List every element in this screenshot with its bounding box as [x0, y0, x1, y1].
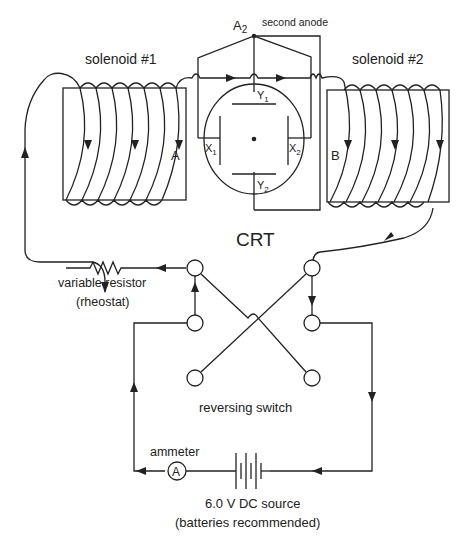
switch-terminal-top-left	[187, 260, 203, 276]
crt: Y1 Y2 X1 X2 A2 second anode	[198, 16, 328, 210]
point-b-label: B	[331, 148, 340, 163]
beam-spot	[252, 137, 257, 142]
switch-terminal-bottom-right	[304, 370, 320, 386]
current-arrow-icon	[226, 74, 236, 82]
source-label-line2: (batteries recommended)	[175, 515, 320, 530]
wire-solenoid1-to-rheostat	[25, 73, 105, 292]
current-arrow-icon	[308, 296, 316, 306]
crt-solenoid-circuit-diagram: A solenoid #1 Y1 Y2 X1 X2 A2 second anod…	[0, 0, 472, 552]
current-arrow-icon	[130, 382, 138, 392]
second-anode-label: second anode	[262, 16, 328, 28]
rheostat-label-line1: variable resistor	[58, 276, 146, 290]
ammeter-symbol-label: A	[172, 465, 180, 479]
current-arrow-icon	[368, 392, 376, 402]
current-arrow-icon	[84, 140, 92, 150]
solenoid-2-top-loops	[344, 85, 440, 90]
solenoid-1-top-loops	[80, 83, 176, 88]
x1-label: X1	[205, 142, 217, 157]
solenoid-1-bottom-loops	[66, 200, 162, 205]
wire-solenoid2-to-switch	[313, 208, 433, 260]
rheostat: variable resistor (rheostat)	[58, 262, 186, 309]
solenoid-1: A	[63, 83, 186, 205]
ammeter-label: ammeter	[150, 445, 199, 459]
resistor-symbol	[66, 262, 186, 274]
current-arrow-icon	[21, 147, 29, 158]
battery-source: 6.0 V DC source (batteries recommended)	[175, 453, 320, 530]
x2-label: X2	[289, 142, 301, 157]
current-arrow-icon	[391, 140, 399, 150]
switch-terminal-mid-right	[304, 315, 320, 331]
reversing-switch: reversing switch	[187, 260, 320, 415]
anode-node	[252, 34, 256, 38]
switch-label: reversing switch	[199, 400, 292, 415]
point-a-label: A	[171, 148, 180, 163]
current-arrow-icon	[384, 232, 394, 241]
current-arrow-icon	[344, 140, 352, 150]
switch-terminal-bottom-left	[187, 370, 203, 386]
solenoid-1-core	[63, 88, 186, 200]
wire-switch-to-source	[270, 323, 372, 471]
y2-label: Y2	[257, 179, 269, 194]
current-arrow-icon	[276, 74, 286, 82]
wire-solenoid1-to-solenoid2	[176, 74, 344, 88]
solenoid-2: B	[327, 82, 449, 207]
rheostat-label-line2: (rheostat)	[76, 295, 130, 309]
current-arrow-icon	[131, 140, 139, 150]
solenoid-2-bottom-loops	[328, 202, 424, 207]
solenoid-1-label: solenoid #1	[85, 51, 157, 67]
anode-label: A2	[233, 18, 248, 35]
solenoid-2-label: solenoid #2	[352, 51, 424, 67]
current-arrow-icon	[191, 282, 199, 292]
switch-terminal-top-right	[304, 260, 320, 276]
switch-terminal-mid-left	[187, 315, 203, 331]
solenoid-2-core	[327, 90, 449, 202]
crt-label: CRT	[236, 229, 275, 250]
current-arrow-icon	[156, 264, 166, 272]
source-label-line1: 6.0 V DC source	[205, 496, 300, 511]
y1-label: Y1	[257, 89, 269, 104]
current-arrow-icon	[436, 140, 444, 150]
ammeter: A ammeter	[150, 445, 199, 480]
current-arrow-icon	[312, 467, 322, 475]
current-arrow-icon	[136, 467, 146, 475]
